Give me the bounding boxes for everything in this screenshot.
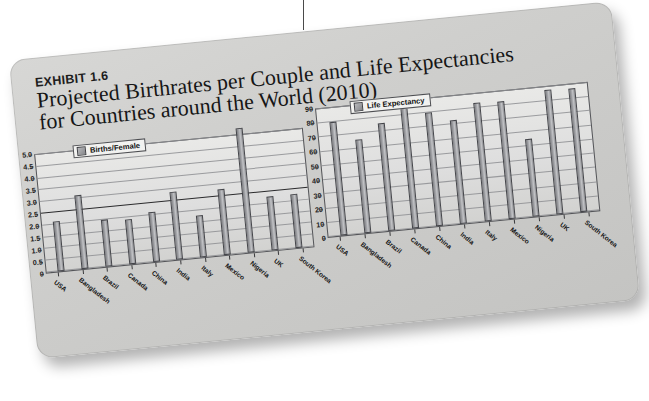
x-tick-label-china: China <box>151 269 170 286</box>
x-tick-mark <box>229 256 230 260</box>
x-tick-label-italy: Italy <box>200 264 215 278</box>
x-tick-label-usa: USA <box>53 279 68 293</box>
x-tick-label-usa: USA <box>335 243 350 257</box>
bar-italy <box>473 102 492 222</box>
x-tick-mark <box>131 265 132 269</box>
x-tick-mark <box>302 248 303 252</box>
x-tick-mark <box>439 227 440 231</box>
bar-brazil <box>101 219 113 267</box>
bar-brazil <box>378 123 396 231</box>
x-tick-mark <box>414 229 415 233</box>
exhibit-card: EXHIBIT 1.6 Projected Birthrates per Cou… <box>9 1 640 359</box>
legend-swatch-icon <box>77 146 87 156</box>
x-tick-label-brazil: Brazil <box>385 238 403 255</box>
bar-bangladesh <box>355 139 371 233</box>
x-tick-label-south-korea: South Korea <box>298 255 333 285</box>
x-tick-label-india: India <box>459 231 475 246</box>
x-tick-label-italy: Italy <box>484 228 499 242</box>
bar-india <box>450 120 467 224</box>
bar-china <box>148 212 160 262</box>
bar-usa <box>329 122 347 236</box>
bar-india <box>170 191 184 260</box>
x-tick-label-mexico: Mexico <box>509 226 531 245</box>
x-tick-mark <box>340 237 341 241</box>
x-tick-label-canada: Canada <box>127 271 150 291</box>
x-tick-label-nigeria: Nigeria <box>534 223 556 242</box>
x-tick-mark <box>390 232 391 236</box>
bar-nigeria <box>235 128 254 253</box>
bar-bangladesh <box>75 194 89 269</box>
x-tick-mark <box>489 222 490 226</box>
x-tick-mark <box>205 258 206 262</box>
x-tick-label-brazil: Brazil <box>102 274 120 291</box>
x-tick-mark <box>464 225 465 229</box>
exhibit-screenshot: EXHIBIT 1.6 Projected Birthrates per Cou… <box>0 0 649 401</box>
x-tick-mark <box>278 251 279 255</box>
x-tick-mark <box>156 263 157 267</box>
bar-canada <box>400 108 419 229</box>
bar-canada <box>125 219 136 264</box>
bar-nigeria <box>525 138 540 217</box>
x-tick-label-china: China <box>434 233 453 250</box>
x-tick-mark <box>253 253 254 257</box>
x-tick-mark <box>563 215 564 219</box>
bar-mexico <box>497 101 515 219</box>
bar-italy <box>196 215 207 258</box>
bar-uk <box>266 196 278 251</box>
x-tick-label-mexico: Mexico <box>224 262 246 281</box>
x-tick-label-south-korea: South Korea <box>583 219 618 249</box>
x-tick-mark <box>82 270 83 274</box>
bar-usa <box>53 221 65 271</box>
bar-south-korea <box>290 194 302 249</box>
x-tick-label-uk: UK <box>558 221 570 232</box>
x-tick-mark <box>58 272 59 276</box>
x-tick-mark <box>365 234 366 238</box>
page-hairline <box>303 0 304 30</box>
bar-china <box>425 112 443 226</box>
x-tick-label-nigeria: Nigeria <box>249 259 271 278</box>
x-tick-label-uk: UK <box>273 257 285 268</box>
x-tick-mark <box>538 217 539 221</box>
x-tick-label-india: India <box>175 267 191 282</box>
x-tick-mark <box>107 268 108 272</box>
bar-south-korea <box>569 88 588 212</box>
x-tick-label-canada: Canada <box>410 236 433 256</box>
legend-swatch-icon <box>354 102 364 112</box>
bar-uk <box>544 89 563 214</box>
bar-mexico <box>218 189 231 255</box>
x-tick-mark <box>180 260 181 264</box>
x-tick-mark <box>514 220 515 224</box>
x-tick-mark <box>588 212 589 216</box>
